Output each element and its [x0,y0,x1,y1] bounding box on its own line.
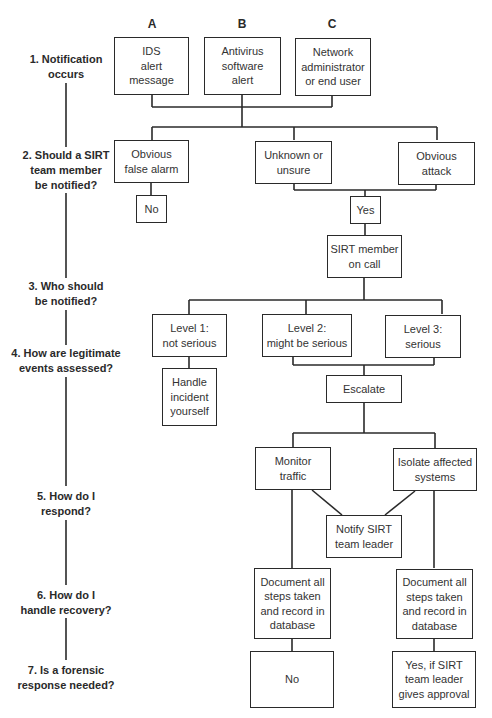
step-3-label: 3. Who should be notified? [1,279,131,309]
node-level-1: Level 1: not serious [152,314,227,357]
node-no-notify: No [136,195,167,223]
step-7-label: 7. Is a forensic response needed? [1,663,131,693]
node-ids-alert: IDS alert message [114,37,189,95]
node-yes-notify: Yes [350,196,381,224]
node-forensic-no: No [250,651,334,708]
node-document-right: Document all steps taken and record in d… [396,569,473,639]
node-false-alarm: Obvious false alarm [114,140,189,183]
node-antivirus-alert: Antivirus software alert [204,37,281,95]
node-level-2: Level 2: might be serious [262,314,352,357]
node-handle-yourself: Handle incident yourself [162,368,217,426]
node-level-3: Level 3: serious [385,315,461,358]
step-2-label: 2. Should a SIRT team member be notified… [1,148,131,193]
column-label-b: B [232,17,252,31]
node-network-admin: Network administrator or end user [295,38,371,96]
column-label-c: C [322,17,342,31]
node-obvious-attack: Obvious attack [398,142,475,185]
step-6-label: 6. How do I handle recovery? [1,588,131,618]
node-forensic-yes: Yes, if SIRT team leader gives approval [392,651,476,708]
node-unknown: Unknown or unsure [255,141,332,184]
step-5-label: 5. How do I respond? [1,489,131,519]
step-1-label: 1. Notification occurs [1,52,131,82]
step-4-label: 4. How are legitimate events assessed? [1,346,131,376]
node-document-left: Document all steps taken and record in d… [254,568,331,639]
node-monitor-traffic: Monitor traffic [255,447,331,490]
node-isolate-systems: Isolate affected systems [393,448,477,491]
column-label-a: A [142,17,162,31]
node-escalate: Escalate [326,375,402,403]
node-sirt-on-call: SIRT member on call [327,235,402,278]
node-notify-leader: Notify SIRT team leader [326,515,402,558]
